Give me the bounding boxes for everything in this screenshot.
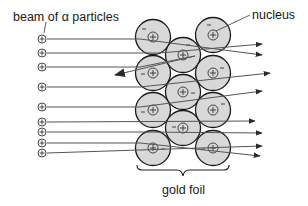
alpha-particle-icon	[38, 63, 46, 71]
alpha-particle-icon	[38, 128, 46, 136]
beam-label: beam of α particles	[13, 11, 119, 24]
rutherford-scattering-diagram	[0, 0, 308, 206]
alpha-particle-icon	[38, 35, 46, 43]
gold-atoms	[136, 18, 231, 166]
alpha-particles	[38, 35, 46, 157]
alpha-particle-icon	[38, 149, 46, 157]
gold-atom	[166, 75, 201, 110]
alpha-particle-icon	[38, 83, 46, 91]
gold-atom	[136, 93, 171, 128]
gold-foil-label: gold foil	[162, 184, 205, 197]
alpha-particle-icon	[38, 118, 46, 126]
gold-atom	[136, 131, 171, 166]
nucleus-label: nucleus	[252, 9, 295, 22]
alpha-particle-icon	[38, 103, 46, 111]
gold-atom	[136, 20, 171, 55]
alpha-particle-icon	[38, 49, 46, 57]
gold-atom	[196, 56, 231, 91]
gold-atom	[166, 111, 201, 146]
foil-brace	[137, 165, 229, 176]
alpha-particle-icon	[38, 139, 46, 147]
